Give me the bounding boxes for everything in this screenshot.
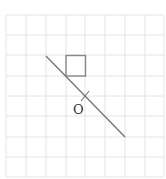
point-label-o: O xyxy=(73,103,84,116)
square-shape xyxy=(66,56,86,77)
diagram-canvas xyxy=(0,0,166,179)
